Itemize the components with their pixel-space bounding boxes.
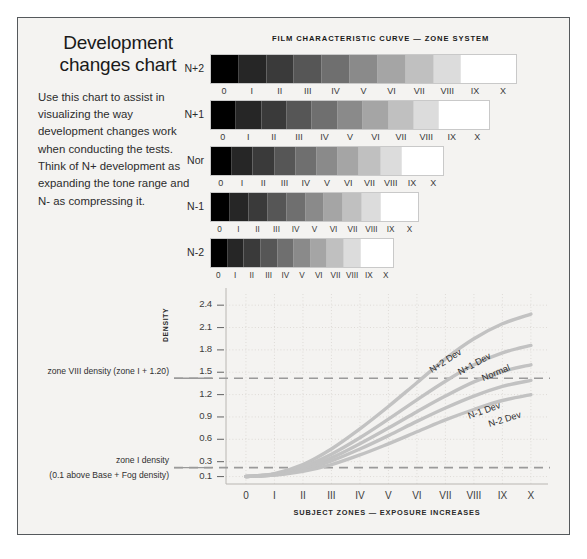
zone-tick-label: V: [305, 224, 324, 235]
strip-row-label: N-1: [162, 200, 204, 212]
zone-strip-ticks: 0IIIIIIIVVVIVIIVIIIIXX: [210, 270, 394, 281]
reference-line-caption: (0.1 above Base + Fog density): [18, 470, 169, 480]
y-axis-tick-label: 0.3: [174, 455, 212, 466]
zone-tick-label: V: [294, 270, 311, 281]
zone-swatch: [381, 193, 400, 221]
zone-tick-label: V: [337, 132, 362, 143]
x-axis-tick-label: X: [511, 490, 551, 501]
y-axis-title: DENSITY: [162, 308, 169, 342]
zone-swatch: [489, 55, 516, 83]
y-axis-tick-label: 2.1: [174, 321, 212, 332]
zone-tick-label: I: [238, 86, 266, 97]
zone-tick-label: VIII: [380, 178, 401, 189]
zone-swatch: [211, 147, 232, 175]
zone-swatch: [294, 55, 322, 83]
zone-strip: [210, 192, 419, 222]
x-axis-tick-label: I: [254, 490, 294, 501]
zone-tick-label: X: [400, 224, 419, 235]
zone-tick-label: VIII: [344, 270, 361, 281]
zone-tick-label: I: [227, 270, 244, 281]
x-axis-tick-label: III: [311, 490, 351, 501]
strip-row-label: N-2: [162, 246, 204, 258]
zone-tick-label: II: [248, 224, 267, 235]
zone-swatch: [338, 147, 359, 175]
zone-strip: [210, 100, 490, 130]
zone-swatch: [287, 101, 312, 129]
zone-swatch: [465, 101, 489, 129]
strip-row-label: Nor: [162, 154, 204, 166]
zone-tick-label: IX: [401, 178, 422, 189]
zone-swatch: [249, 193, 268, 221]
x-axis-tick-label: VIII: [454, 490, 494, 501]
zone-swatch: [317, 147, 338, 175]
curve-label: N+2 Dev: [427, 347, 463, 375]
zone-swatch: [361, 239, 378, 267]
intro-block: Development changes chart Use this chart…: [38, 32, 198, 210]
zone-tick-label: IX: [461, 86, 489, 97]
zone-tick-label: VIII: [433, 86, 461, 97]
zone-swatch: [350, 55, 378, 83]
zone-tick-label: III: [274, 178, 295, 189]
zone-tick-label: X: [423, 178, 444, 189]
zone-strip-ticks: 0IIIIIIIVVVIVIIVIIIIXX: [210, 86, 517, 97]
zone-swatch: [236, 101, 261, 129]
zone-swatch: [343, 193, 362, 221]
strips-title: FILM CHARACTERISTIC CURVE — ZONE SYSTEM: [208, 34, 553, 43]
zone-swatch: [211, 55, 239, 83]
zone-tick-label: VI: [338, 178, 359, 189]
page-root: Development changes chart Use this chart…: [0, 0, 587, 559]
y-axis-tick-label: 0.6: [174, 432, 212, 443]
zone-tick-label: 0: [210, 86, 238, 97]
zone-swatch: [327, 239, 344, 267]
zone-swatch: [378, 55, 406, 83]
zone-swatch: [400, 193, 418, 221]
zone-tick-label: III: [260, 270, 277, 281]
zone-tick-label: I: [231, 178, 252, 189]
zone-tick-label: IV: [312, 132, 337, 143]
zone-tick-label: III: [267, 224, 286, 235]
zone-tick-label: I: [235, 132, 260, 143]
zone-tick-label: VII: [388, 132, 413, 143]
zone-swatch: [402, 147, 423, 175]
zone-tick-label: VIII: [414, 132, 439, 143]
chart-panel: Development changes chart Use this chart…: [17, 17, 570, 535]
x-axis-tick-label: VI: [397, 490, 437, 501]
zone-swatch: [275, 147, 296, 175]
zone-tick-label: V: [316, 178, 337, 189]
zone-swatch: [439, 101, 464, 129]
zone-strip: [210, 146, 444, 176]
zone-swatch: [434, 55, 462, 83]
x-axis-tick-label: V: [368, 490, 408, 501]
zone-tick-label: IX: [381, 224, 400, 235]
zone-strip-ticks: 0IIIIIIIVVVIVIIVIIIIXX: [210, 132, 490, 143]
zone-tick-label: IX: [361, 270, 378, 281]
zone-tick-label: II: [253, 178, 274, 189]
zone-swatch: [423, 147, 443, 175]
zone-tick-label: 0: [210, 178, 231, 189]
zone-tick-label: III: [286, 132, 311, 143]
y-axis-tick-label: 0.9: [174, 410, 212, 421]
y-axis-tick-label: 1.8: [174, 343, 212, 354]
zone-swatch: [362, 193, 381, 221]
zone-swatch: [344, 239, 361, 267]
zone-swatch: [244, 239, 261, 267]
zone-swatch: [377, 239, 393, 267]
zone-swatch: [228, 239, 245, 267]
zone-strip-ticks: 0IIIIIIIVVVIVIIVIIIIXX: [210, 224, 419, 235]
zone-swatch: [414, 101, 439, 129]
zone-swatch: [312, 101, 337, 129]
zone-swatch: [211, 101, 236, 129]
zone-tick-label: VI: [363, 132, 388, 143]
x-axis-tick-label: IX: [482, 490, 522, 501]
x-axis-tick-label: IV: [340, 490, 380, 501]
zone-swatch: [338, 101, 363, 129]
zone-tick-label: VII: [327, 270, 344, 281]
zone-tick-label: 0: [210, 224, 229, 235]
zone-swatch: [406, 55, 434, 83]
zone-tick-label: IX: [439, 132, 464, 143]
zone-swatch: [322, 55, 350, 83]
zone-swatch: [296, 147, 317, 175]
zone-tick-label: VII: [359, 178, 380, 189]
zone-swatch: [262, 101, 287, 129]
zone-tick-label: III: [294, 86, 322, 97]
